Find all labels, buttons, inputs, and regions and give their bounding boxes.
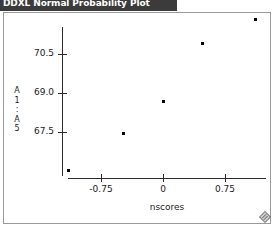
y-axis-label-char: A: [11, 115, 23, 125]
y-tick-label: 67.5: [34, 126, 54, 136]
y-tick: [58, 132, 67, 133]
screenshot-root: DDXL Normal Probability Plot -0.7500.75 …: [0, 0, 276, 228]
x-tick-label: 0.75: [205, 184, 245, 194]
y-axis-label: A1:A5: [11, 86, 23, 134]
y-tick-label: 70.5: [34, 48, 54, 58]
y-axis-label-char: A: [11, 86, 23, 96]
y-tick: [58, 54, 67, 55]
resize-grip-icon[interactable]: [258, 210, 272, 224]
y-axis-label-char: 5: [11, 124, 23, 134]
data-point: [122, 132, 125, 135]
y-axis-label-char: 1: [11, 96, 23, 106]
x-tick-label: 0: [143, 184, 183, 194]
x-axis-label: nscores: [68, 202, 266, 212]
x-axis-line: [68, 178, 266, 179]
data-point: [162, 100, 165, 103]
y-tick-label: 69.0: [34, 87, 54, 97]
y-axis-label-char: :: [11, 105, 23, 115]
y-tick: [58, 93, 67, 94]
data-point: [67, 169, 70, 172]
data-point: [254, 18, 257, 21]
normal-probability-plot: -0.7500.75 67.569.070.5 nscores A1:A5: [0, 0, 276, 228]
x-tick: [101, 174, 102, 182]
x-tick: [163, 174, 164, 182]
y-axis-line: [62, 27, 63, 176]
x-tick: [225, 174, 226, 182]
data-point: [201, 42, 204, 45]
x-tick-label: -0.75: [81, 184, 121, 194]
